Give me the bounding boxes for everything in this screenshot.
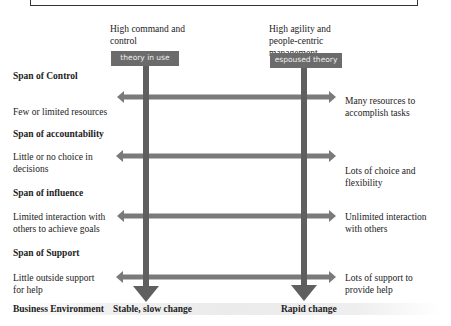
vertical-arrow-right-shaft: [301, 66, 307, 286]
row-heading-control: Span of Control: [13, 71, 78, 81]
row-heading-accountability: Span of accountability: [13, 129, 104, 139]
vertical-arrow-left-shaft: [143, 65, 149, 287]
row-left-accountability: Little or no choice in decisions: [13, 151, 93, 175]
row-right-accountability: Lots of choice and flexibility: [345, 165, 451, 189]
row-left-support: Little outside support for help: [13, 272, 98, 296]
row-heading-support: Span of Support: [13, 248, 80, 258]
business-environment-label: Business Environment: [13, 303, 104, 315]
theory-in-use-box: theory in use: [111, 51, 179, 66]
vertical-arrow-right-head: [291, 285, 317, 301]
row-left-influence: Limited interaction with others to achie…: [13, 211, 108, 235]
row-right-support: Lots of support to provide help: [345, 272, 440, 296]
row-right-control: Many resources to accomplish tasks: [345, 95, 425, 119]
stable-slow-change-label: Stable, slow change: [113, 303, 192, 315]
rapid-change-label: Rapid change: [281, 303, 337, 315]
row-heading-influence: Span of influence: [13, 188, 83, 198]
left-column-title: High command and control: [110, 23, 205, 47]
row-right-influence: Unlimited interaction with others: [345, 211, 435, 235]
espoused-theory-box: espoused theory: [270, 53, 342, 68]
row-left-control: Few or limited resources: [13, 106, 113, 118]
vertical-arrows: [133, 65, 317, 302]
vertical-arrow-left-head: [133, 286, 159, 302]
